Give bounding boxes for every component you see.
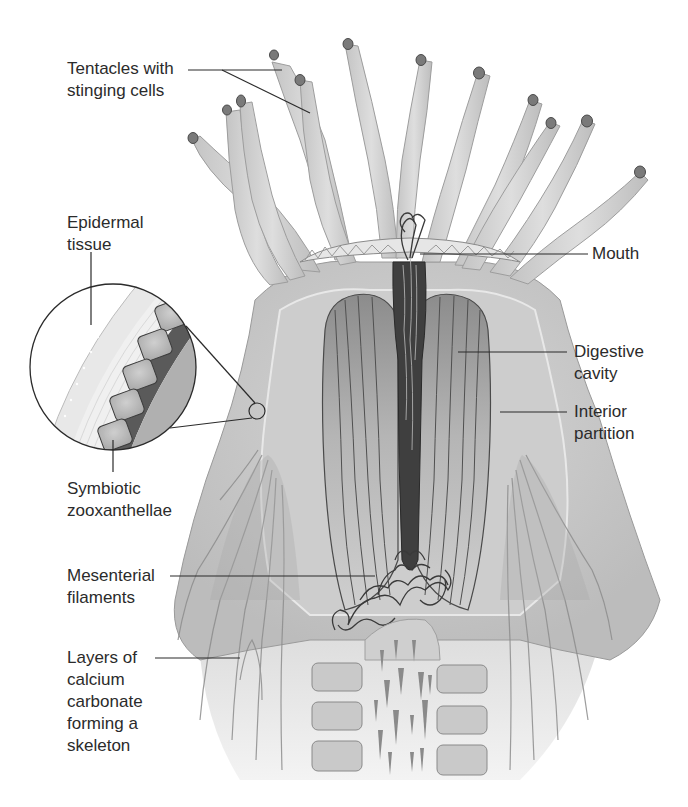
label-epidermal-tissue: Epidermal tissue <box>67 212 144 256</box>
label-mouth: Mouth <box>592 243 639 265</box>
label-digestive-cavity: Digestive cavity <box>574 341 644 385</box>
label-layers-calcium-carbonate: Layers of calcium carbonate forming a sk… <box>67 647 143 757</box>
label-mesenterial-filaments: Mesenterial filaments <box>67 565 155 609</box>
label-interior-partition: Interior partition <box>574 401 634 445</box>
label-tentacles: Tentacles with stinging cells <box>67 58 174 102</box>
label-symbiotic-zooxanthellae: Symbiotic zooxanthellae <box>67 478 172 522</box>
